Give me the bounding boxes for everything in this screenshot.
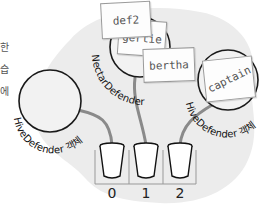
reference-label: bertha bbox=[149, 58, 189, 72]
left-object-circle bbox=[19, 70, 81, 132]
array-index-2: 2 bbox=[170, 185, 190, 201]
side-text-1: 한 bbox=[0, 43, 9, 53]
array-index-0: 0 bbox=[102, 185, 122, 201]
side-text-2: 습 bbox=[0, 65, 9, 75]
cup-icon bbox=[100, 143, 124, 178]
heap-diagram: HiveDefender 객체 NectarDefender HiveDefen… bbox=[0, 0, 278, 211]
cup-icon bbox=[134, 143, 158, 178]
array bbox=[95, 143, 196, 184]
reference-note-captain: captain bbox=[202, 56, 256, 103]
cup-icon bbox=[168, 143, 192, 178]
reference-label: def2 bbox=[112, 13, 139, 27]
reference-label: captain bbox=[205, 63, 252, 95]
side-text-3: 에 bbox=[0, 87, 9, 97]
array-index-1: 1 bbox=[136, 185, 156, 201]
reference-note-bertha: bertha bbox=[142, 47, 195, 83]
reference-note-def2: def2 bbox=[100, 1, 152, 40]
